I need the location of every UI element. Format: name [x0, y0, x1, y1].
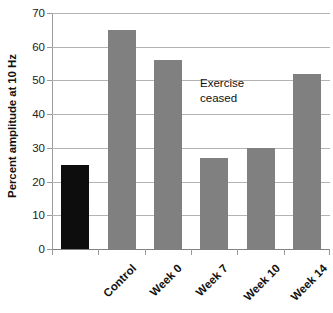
x-label-week-14[interactable]: Week 14 — [288, 262, 329, 303]
y-tick-mark-20 — [47, 182, 52, 183]
y-tick-mark-10 — [47, 215, 52, 216]
gridline-40 — [52, 114, 330, 115]
annotation-line-2: ceased — [200, 91, 270, 106]
x-tick-3 — [191, 249, 192, 255]
gridline-70 — [52, 13, 330, 14]
y-tick-label-0: 0 — [39, 243, 45, 255]
x-label-control[interactable]: Control — [101, 262, 138, 299]
x-label-week-10[interactable]: Week 10 — [242, 262, 283, 303]
annotation-exercise-ceased: Exercise ceased — [200, 76, 270, 105]
x-label-week-7[interactable]: Week 7 — [193, 262, 229, 298]
y-tick-label-20: 20 — [32, 176, 45, 188]
y-tick-label-50: 50 — [32, 74, 45, 86]
bar-week-17[interactable] — [293, 74, 321, 249]
y-tick-label-40: 40 — [32, 108, 45, 120]
x-label-week-0[interactable]: Week 0 — [147, 262, 183, 298]
annotation-line-1: Exercise — [200, 76, 270, 91]
gridline-60 — [52, 47, 330, 48]
y-tick-mark-70 — [47, 13, 52, 14]
gridline-20 — [52, 182, 330, 183]
x-tick-0 — [52, 249, 53, 255]
bar-control[interactable] — [61, 165, 89, 249]
y-tick-label-10: 10 — [32, 209, 45, 221]
bar-week-10[interactable] — [200, 158, 228, 249]
x-tick-2 — [145, 249, 146, 255]
x-tick-6 — [329, 249, 330, 255]
x-tick-4 — [237, 249, 238, 255]
gridline-50 — [52, 80, 330, 81]
x-tick-5 — [284, 249, 285, 255]
bar-week-14[interactable] — [247, 148, 275, 249]
bar-chart: Percent amplitude at 10 Hz 0102030405060… — [0, 0, 333, 313]
y-tick-mark-30 — [47, 148, 52, 149]
x-axis-labels: ControlWeek 0Week 7Week 10Week 14Week 17 — [52, 256, 330, 313]
gridline-10 — [52, 215, 330, 216]
x-axis-ticks — [52, 249, 330, 256]
y-axis-title: Percent amplitude at 10 Hz — [6, 26, 18, 226]
x-tick-1 — [98, 249, 99, 255]
bar-week-0[interactable] — [108, 30, 136, 249]
y-tick-mark-60 — [47, 47, 52, 48]
y-tick-mark-50 — [47, 80, 52, 81]
y-tick-label-30: 30 — [32, 142, 45, 154]
bar-week-7[interactable] — [154, 60, 182, 249]
plot-area: 010203040506070 — [52, 13, 330, 249]
y-tick-label-60: 60 — [32, 41, 45, 53]
y-tick-label-70: 70 — [32, 7, 45, 19]
y-tick-mark-40 — [47, 114, 52, 115]
gridline-30 — [52, 148, 330, 149]
